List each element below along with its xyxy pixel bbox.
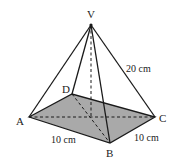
measurement-ab: 10 cm — [51, 134, 76, 145]
measurement-bc: 10 cm — [134, 132, 159, 143]
pyramid-diagram: V A B C D 20 cm 10 cm 10 cm — [0, 0, 172, 165]
label-a: A — [16, 115, 24, 127]
measurement-vc: 20 cm — [126, 63, 151, 74]
label-c: C — [159, 112, 166, 124]
label-b: B — [106, 147, 113, 159]
edge-vd — [72, 25, 91, 94]
label-d: D — [62, 83, 70, 95]
vertex-v-dot — [89, 23, 92, 26]
label-v: V — [87, 8, 95, 20]
